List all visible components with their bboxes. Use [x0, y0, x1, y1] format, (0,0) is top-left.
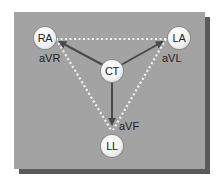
node-ct: CT	[101, 60, 123, 82]
node-la: LA	[168, 27, 190, 49]
node-ra: RA	[34, 27, 56, 49]
triangle-right-edge	[113, 39, 166, 130]
node-ll: LL	[101, 135, 123, 157]
lead-vectors	[60, 42, 162, 124]
lead-avf-label: aVF	[119, 120, 139, 132]
avr-arrow	[60, 42, 103, 65]
avl-arrow	[121, 42, 162, 65]
node-la-label: LA	[173, 32, 186, 44]
node-ct-label: CT	[105, 65, 119, 77]
node-ll-label: LL	[106, 140, 118, 152]
node-ra-label: RA	[38, 32, 53, 44]
lead-avl-label: aVL	[162, 52, 182, 64]
lead-diagram-svg	[0, 0, 224, 185]
lead-avr-label: aVR	[39, 52, 60, 64]
triangle-left-edge	[56, 39, 111, 130]
